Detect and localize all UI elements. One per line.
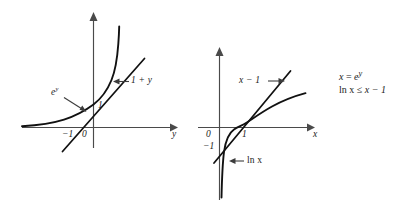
annotation-line-2: ln x ≤ x − 1 xyxy=(339,83,386,96)
left-vertical-axis-arrowhead xyxy=(90,12,98,21)
left-tick-label-zero: 0 xyxy=(82,130,87,140)
right-tick-label-minus-one: −1 xyxy=(203,142,215,152)
right-horizontal-axis-label: x xyxy=(313,130,317,140)
logarithm-curve-label: ln x xyxy=(247,156,262,166)
left-tick-label-minus-one: −1 xyxy=(62,130,74,140)
exponential-curve-leader xyxy=(64,98,87,113)
annotation-line-1: x = ey xyxy=(339,67,386,83)
figure-canvas xyxy=(0,0,415,212)
exponential-curve-label: ey xyxy=(51,88,59,98)
right-tick-label-zero: 0 xyxy=(206,130,211,140)
right-plot-axes xyxy=(198,47,315,200)
exponential-curve xyxy=(22,27,119,127)
logarithm-tangent-label-leader xyxy=(268,78,285,84)
exponential-tangent-label: 1 + y xyxy=(131,76,152,86)
math-figure: ey 1 + y −1 0 1 y x − 1 ln x 0 1 −1 x x … xyxy=(0,0,415,212)
annotation-line-2-rhs: x − 1 xyxy=(365,84,386,95)
exponential-curve-label-exponent: y xyxy=(55,85,58,92)
right-vertical-axis-arrowhead xyxy=(216,47,224,56)
tangent-leader-arrowhead xyxy=(113,79,120,85)
logarithm-tangent-label: x − 1 xyxy=(239,76,260,86)
annotation-line-1-exponent: y xyxy=(359,69,363,78)
logarithm-leader-arrowhead xyxy=(229,158,236,164)
annotation-line-2-lhs: ln x xyxy=(339,84,354,95)
logarithm-curve-leader xyxy=(229,158,244,164)
left-tick-label-one: 1 xyxy=(98,101,103,111)
logarithm-curve xyxy=(222,93,306,197)
left-horizontal-axis-label: y xyxy=(172,130,176,140)
inequality-annotation: x = ey ln x ≤ x − 1 xyxy=(339,67,386,96)
right-tick-label-one: 1 xyxy=(242,130,247,140)
left-plot-axes xyxy=(22,12,178,148)
